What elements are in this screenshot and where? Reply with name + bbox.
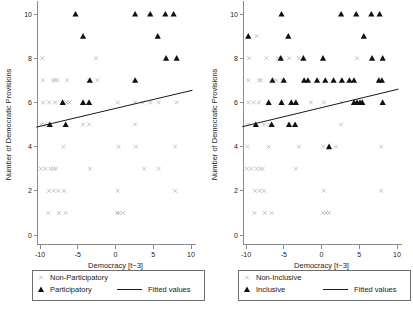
marker-triangle [269, 77, 275, 83]
marker-triangle [380, 99, 386, 105]
axis-labels-right: 0246810-10-50510Democracy [t−3]Number of… [210, 11, 401, 271]
marker-x [87, 123, 91, 127]
marker-x [259, 78, 263, 82]
legend-label-fitted: Fitted values [148, 285, 191, 294]
x-tick-label: 0 [114, 251, 118, 258]
marker-x [94, 56, 98, 60]
marker-triangle [162, 11, 168, 17]
marker-x [41, 101, 45, 105]
fitted-values-line [36, 90, 192, 127]
marker-x [322, 189, 326, 193]
marker-x [321, 145, 325, 149]
marker-triangle [285, 33, 291, 39]
marker-x [297, 145, 301, 149]
marker-triangle [286, 121, 292, 127]
marker-x [173, 145, 177, 149]
marker-triangle [174, 55, 180, 61]
marker-x [173, 189, 177, 193]
marker-x [133, 123, 137, 127]
marker-triangle [320, 55, 326, 61]
marker-x [379, 145, 383, 149]
marker-x [255, 167, 259, 171]
marker-x [55, 78, 59, 82]
legend-marker-x [39, 276, 43, 280]
marker-triangle [63, 121, 69, 127]
y-tick-label: 8 [28, 55, 32, 62]
marker-triangle [293, 99, 299, 105]
marker-x [65, 78, 69, 82]
marker-x [39, 167, 43, 171]
marker-x [262, 189, 266, 193]
x-tick-label: -10 [241, 251, 251, 258]
x-tick-label: -10 [35, 251, 45, 258]
legend-right: Non-InclusiveInclusiveFitted values [238, 270, 410, 300]
y-tick-label: 0 [234, 232, 238, 239]
x-axis-title: Democracy [t−3] [294, 261, 349, 270]
y-tick-label: 10 [230, 11, 238, 18]
marker-triangle [86, 99, 92, 105]
marker-triangle [377, 11, 383, 17]
marker-x [47, 101, 51, 105]
marker-triangle [132, 11, 138, 17]
y-tick-label: 0 [28, 232, 32, 239]
marker-triangle [338, 11, 344, 17]
marker-x [274, 78, 278, 82]
y-tick-label: 2 [234, 187, 238, 194]
marker-x [117, 145, 121, 149]
axis-labels-left: 0246810-10-50510Democracy [t−3]Number of… [4, 11, 195, 271]
marker-x [46, 211, 50, 215]
marker-x [264, 56, 268, 60]
marker-x [53, 101, 57, 105]
legend-label-highlight: Participatory [50, 285, 92, 294]
marker-x [41, 78, 45, 82]
marker-triangle [60, 99, 66, 105]
marker-x [252, 101, 256, 105]
marker-x [121, 211, 125, 215]
x-tick-label: -5 [75, 251, 81, 258]
marker-triangle [245, 33, 251, 39]
panel-left: 0246810-10-50510Democracy [t−3]Number of… [0, 0, 206, 310]
points-left [39, 11, 180, 215]
marker-triangle [80, 99, 86, 105]
marker-x [297, 56, 301, 60]
marker-x [245, 167, 249, 171]
marker-triangle [380, 55, 386, 61]
marker-x [116, 189, 120, 193]
plot-left: 0246810-10-50510Democracy [t−3]Number of… [0, 0, 206, 310]
marker-x [148, 101, 152, 105]
y-axis-title: Number of Democratic Provisions [210, 68, 219, 180]
marker-x [142, 167, 146, 171]
marker-x [294, 167, 298, 171]
legend-marker-triangle [38, 286, 44, 292]
marker-x [267, 145, 271, 149]
marker-x [175, 101, 179, 105]
fit-line-left [36, 90, 192, 127]
marker-x [249, 167, 253, 171]
marker-x [261, 167, 265, 171]
y-tick-label: 10 [24, 11, 32, 18]
marker-x [68, 101, 72, 105]
marker-x [54, 167, 58, 171]
marker-triangle [353, 11, 359, 17]
marker-x [116, 101, 120, 105]
marker-x [57, 211, 61, 215]
marker-x [157, 167, 161, 171]
marker-triangle [163, 55, 169, 61]
marker-x [64, 211, 68, 215]
marker-x [262, 123, 266, 127]
figure-root: 0246810-10-50510Democracy [t−3]Number of… [0, 0, 413, 310]
x-tick-label: 0 [320, 251, 324, 258]
marker-triangle [368, 11, 374, 17]
legend-label-nonhighlight: Non-Participatory [50, 273, 108, 282]
marker-x [62, 145, 66, 149]
marker-x [247, 56, 251, 60]
plot-right: 0246810-10-50510Democracy [t−3]Number of… [206, 0, 413, 310]
marker-triangle [330, 77, 336, 83]
marker-x [327, 211, 331, 215]
marker-x [309, 101, 313, 105]
marker-x [157, 101, 161, 105]
marker-x [117, 211, 121, 215]
marker-triangle [351, 77, 357, 83]
marker-x [62, 189, 66, 193]
marker-x [255, 34, 259, 38]
